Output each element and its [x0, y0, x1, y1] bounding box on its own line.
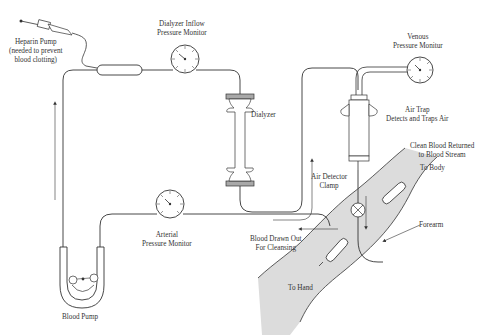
blood-pump-label: Blood Pump	[62, 313, 98, 322]
arrow-up-return	[273, 160, 312, 220]
clean-blood-label: Clean Blood Returned to Blood Stream	[410, 142, 474, 160]
air-trap-label: Air Trap Detects and Traps Air	[386, 106, 449, 124]
to-body-label: To Body	[420, 164, 445, 173]
forearm-label: Forearm	[419, 221, 443, 230]
arterial-monitor-label: Arterial Pressure Monitor	[142, 231, 192, 249]
dialyzer-inflow-gauge	[171, 45, 199, 73]
venous-gauge	[407, 57, 433, 83]
air-detector-clamp-label: Air Detector Clamp	[311, 173, 347, 191]
arterial-gauge	[156, 190, 184, 218]
arrow-forearm-pointer	[384, 225, 420, 241]
air-trap	[341, 95, 377, 170]
venous-line	[356, 67, 408, 95]
blood-drawn-label: Blood Drawn Out For Cleansing	[250, 235, 302, 253]
dialyzer	[226, 94, 254, 186]
to-hand-label: To Hand	[288, 284, 313, 293]
air-detector-clamp	[351, 203, 365, 217]
dialyzer-inflow-label: Dialyzer Inflow Pressure Monitor	[157, 20, 207, 38]
hemodialysis-diagram: Heparin Pump (needed to prevent blood cl…	[0, 0, 492, 335]
heparin-pump-label: Heparin Pump (needed to prevent blood cl…	[9, 38, 62, 65]
blood-pump	[60, 247, 104, 308]
venous-monitor-label: Venous Pressure Monitur	[393, 33, 443, 51]
dialyzer-label: Dialyzer	[251, 111, 276, 120]
